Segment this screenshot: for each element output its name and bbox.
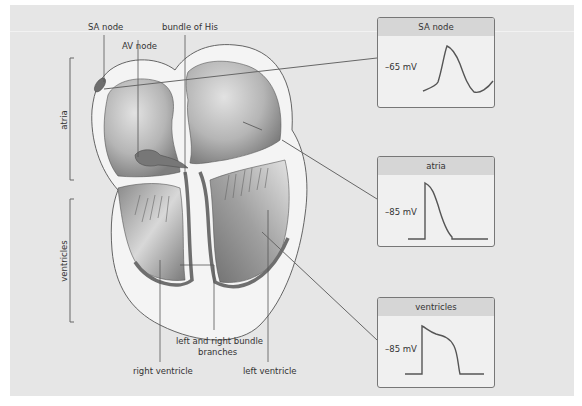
ap-box-atria: atria –85 mV bbox=[377, 156, 495, 247]
label-right-ventricle: right ventricle bbox=[133, 366, 193, 376]
label-sa-node: SA node bbox=[88, 22, 123, 32]
label-atria-bracket: atria bbox=[59, 100, 69, 140]
label-ventricles-bracket: ventricles bbox=[59, 231, 69, 291]
ap-title: atria bbox=[378, 157, 494, 175]
label-bundle-branches-2: branches bbox=[198, 347, 237, 357]
label-left-ventricle: left ventricle bbox=[243, 366, 297, 376]
ap-box-ventricles: ventricles –85 mV bbox=[377, 297, 495, 388]
label-bundle-branches-1: left and right bundle bbox=[176, 336, 263, 346]
label-av-node: AV node bbox=[122, 41, 157, 51]
ventricles-bracket bbox=[70, 199, 74, 322]
label-bundle-of-his: bundle of His bbox=[162, 22, 218, 32]
ap-title: ventricles bbox=[378, 298, 494, 316]
ap-title: SA node bbox=[378, 18, 494, 36]
ap-box-sa-node: SA node –65 mV bbox=[377, 17, 495, 108]
ap-trace-ventricles bbox=[378, 316, 494, 387]
atria-bracket bbox=[70, 58, 74, 180]
ap-trace-sa-node bbox=[378, 36, 494, 107]
ap-trace-atria bbox=[378, 175, 494, 246]
